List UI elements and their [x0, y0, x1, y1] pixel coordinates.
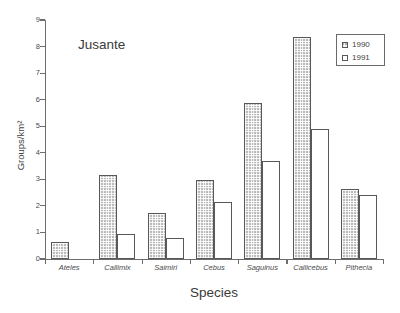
bar-callimix-1990	[99, 175, 117, 259]
bar-callicebus-1991	[311, 129, 329, 259]
category-label-callimix: Callimix	[93, 263, 141, 272]
category-label-callicebus: Callicebus	[286, 263, 334, 272]
y-tick	[40, 179, 45, 180]
category-label-ateles: Ateles	[45, 263, 93, 272]
bar-chart-figure: 0123456789 Groups/km² Species Jusante At…	[0, 0, 400, 313]
bar-saimiri-1990	[148, 213, 166, 259]
y-tick-label: 0	[16, 255, 40, 263]
bar-saguinus-1990	[244, 103, 262, 259]
y-tick	[40, 205, 45, 206]
y-tick	[40, 152, 45, 153]
y-tick	[40, 126, 45, 127]
bar-pithecia-1991	[359, 195, 377, 259]
y-axis-line	[45, 20, 46, 260]
legend-item-1990: 1990	[342, 39, 370, 50]
category-label-pithecia: Pithecia	[335, 263, 383, 272]
bar-callicebus-1990	[293, 37, 311, 259]
bar-cebus-1990	[196, 180, 214, 259]
category-label-cebus: Cebus	[190, 263, 238, 272]
bar-ateles-1990	[51, 242, 69, 259]
bar-saguinus-1991	[262, 161, 280, 259]
y-tick-label: 1	[16, 228, 40, 236]
legend-label-1990: 1990	[352, 41, 370, 49]
bar-cebus-1991	[214, 202, 232, 259]
legend-swatch-1991-icon	[342, 55, 348, 61]
y-tick-label: 2	[16, 202, 40, 210]
y-tick	[40, 99, 45, 100]
y-tick	[40, 232, 45, 233]
y-tick-label: 7	[16, 69, 40, 77]
y-tick	[40, 73, 45, 74]
category-label-saguinus: Saguinus	[238, 263, 286, 272]
y-tick	[40, 46, 45, 47]
legend-item-1991: 1991	[342, 52, 370, 63]
y-axis-title: Groups/km²	[15, 91, 26, 201]
bar-saimiri-1991	[166, 238, 184, 259]
y-tick	[40, 19, 45, 20]
plot-title: Jusante	[78, 37, 125, 52]
bar-pithecia-1990	[341, 189, 359, 259]
y-tick-label: 9	[16, 16, 40, 24]
x-axis-title: Species	[45, 285, 383, 300]
category-label-saimiri: Saimiri	[142, 263, 190, 272]
legend-swatch-1990-icon	[342, 42, 348, 48]
x-tick	[383, 259, 384, 264]
bar-callimix-1991	[117, 234, 135, 259]
chart-legend: 1990 1991	[336, 34, 385, 66]
legend-label-1991: 1991	[352, 54, 370, 62]
y-tick-label: 8	[16, 43, 40, 51]
x-axis-line	[45, 259, 383, 260]
